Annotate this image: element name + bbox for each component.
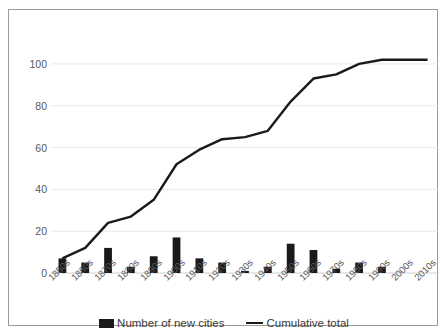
legend-entry[interactable]: Number of new cities <box>99 317 224 329</box>
gridlines <box>51 64 439 273</box>
y-axis-tick-label: 40 <box>15 184 47 194</box>
x-axis: 1850s1860s1870s1880s1890s1900s1910s1920s… <box>51 275 439 315</box>
y-axis: 020406080100 <box>9 43 47 273</box>
chart-screenshot: 020406080100 1850s1860s1870s1880s1890s19… <box>0 0 447 335</box>
bar-swatch-icon <box>99 319 114 328</box>
plot-svg <box>51 43 439 273</box>
chart-legend: Number of new citiesCumulative total <box>9 314 439 332</box>
cumulative-line-group <box>62 60 427 259</box>
y-axis-tick-label: 60 <box>15 143 47 153</box>
legend-entry[interactable]: Cumulative total <box>246 317 348 329</box>
y-axis-tick-label: 0 <box>15 268 47 278</box>
line-swatch-icon <box>246 322 263 324</box>
y-axis-tick-label: 80 <box>15 101 47 111</box>
legend-label: Cumulative total <box>266 317 348 329</box>
chart-frame: 020406080100 1850s1860s1870s1880s1890s19… <box>8 9 438 326</box>
cumulative-line <box>62 60 427 259</box>
y-axis-tick-label: 100 <box>15 59 47 69</box>
plot-area <box>51 43 439 273</box>
legend-label: Number of new cities <box>117 317 224 329</box>
y-axis-tick-label: 20 <box>15 226 47 236</box>
